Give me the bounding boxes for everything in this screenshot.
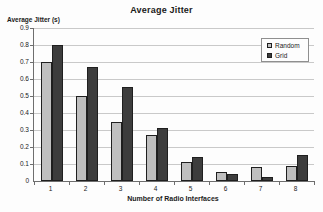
gridline xyxy=(34,62,314,63)
y-axis-label: Average Jitter (s) xyxy=(7,16,60,23)
y-tick-label: 0 xyxy=(0,177,29,184)
x-category-label: 1 xyxy=(33,185,68,192)
x-category-label: 3 xyxy=(103,185,138,192)
x-axis-label: Number of Radio Interfaces xyxy=(33,195,313,202)
chart-title: Average Jitter xyxy=(0,5,323,15)
bar-random-2 xyxy=(76,96,87,181)
x-category-label: 4 xyxy=(138,185,173,192)
legend-item-grid: Grid xyxy=(267,52,305,59)
y-tick-label: 0.8 xyxy=(0,41,29,48)
bar-grid-7 xyxy=(262,177,273,181)
y-tick-mark xyxy=(30,147,34,148)
bar-random-5 xyxy=(181,162,192,181)
y-tick-label: 0.5 xyxy=(0,92,29,99)
y-tick-mark xyxy=(30,79,34,80)
bar-grid-3 xyxy=(122,87,133,181)
x-tick-mark xyxy=(314,181,315,185)
bar-grid-5 xyxy=(192,157,203,181)
bar-grid-6 xyxy=(227,174,238,181)
x-axis-tick-labels: 12345678 xyxy=(33,185,313,194)
y-tick-label: 0.4 xyxy=(0,109,29,116)
bar-grid-1 xyxy=(52,45,63,181)
y-tick-label: 0.7 xyxy=(0,58,29,65)
y-tick-mark xyxy=(30,28,34,29)
y-tick-label: 0.9 xyxy=(0,24,29,31)
bar-random-7 xyxy=(251,167,262,181)
legend-swatch-grid-icon xyxy=(267,53,272,58)
x-category-label: 6 xyxy=(208,185,243,192)
y-tick-mark xyxy=(30,130,34,131)
x-category-label: 7 xyxy=(243,185,278,192)
y-tick-mark xyxy=(30,96,34,97)
gridline xyxy=(34,79,314,80)
bar-random-6 xyxy=(216,172,227,181)
bar-chart: Average Jitter Average Jitter (s) 00.10.… xyxy=(0,0,323,212)
y-tick-label: 0.2 xyxy=(0,143,29,150)
y-tick-label: 0.3 xyxy=(0,126,29,133)
x-category-label: 2 xyxy=(68,185,103,192)
bar-random-8 xyxy=(286,166,297,181)
x-category-label: 5 xyxy=(173,185,208,192)
bar-random-3 xyxy=(111,122,122,181)
legend-item-random: Random xyxy=(267,42,305,49)
y-tick-mark xyxy=(30,62,34,63)
x-category-label: 8 xyxy=(278,185,313,192)
y-tick-label: 0.1 xyxy=(0,160,29,167)
y-axis-tick-labels: 00.10.20.30.40.50.60.70.80.9 xyxy=(0,28,29,181)
y-tick-label: 0.6 xyxy=(0,75,29,82)
bar-grid-2 xyxy=(87,67,98,181)
legend-label-random: Random xyxy=(275,42,300,49)
bar-grid-4 xyxy=(157,128,168,181)
y-tick-mark xyxy=(30,45,34,46)
legend-swatch-random-icon xyxy=(267,43,272,48)
legend-label-grid: Grid xyxy=(275,52,287,59)
y-tick-mark xyxy=(30,113,34,114)
bar-grid-8 xyxy=(297,155,308,181)
legend: Random Grid xyxy=(261,38,309,62)
gridline xyxy=(34,28,314,29)
bar-random-1 xyxy=(41,62,52,181)
bar-random-4 xyxy=(146,135,157,181)
y-tick-mark xyxy=(30,164,34,165)
